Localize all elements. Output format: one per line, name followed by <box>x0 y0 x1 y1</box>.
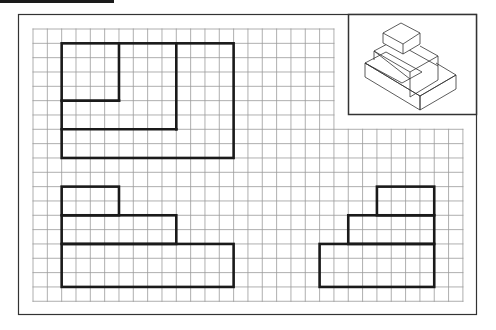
header-bar <box>0 0 114 3</box>
isometric-view-panel <box>349 15 477 115</box>
drawing-canvas <box>0 0 496 330</box>
